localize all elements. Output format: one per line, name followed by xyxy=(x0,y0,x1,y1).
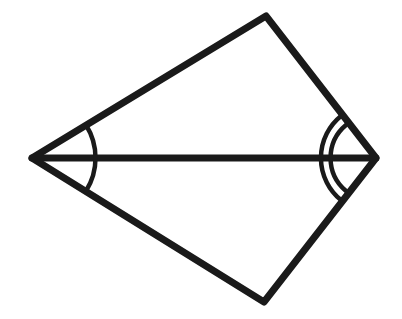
kite-diagram xyxy=(0,0,402,319)
